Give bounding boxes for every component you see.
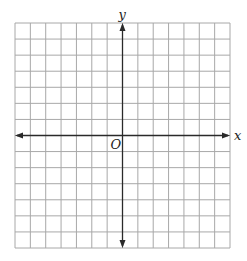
- axes: [15, 23, 230, 248]
- x-axis-label: x: [234, 128, 242, 143]
- coordinate-plane: x y O: [0, 0, 247, 261]
- y-axis-label: y: [118, 7, 127, 22]
- x-axis-left-arrow-icon: [15, 133, 23, 139]
- x-axis-right-arrow-icon: [222, 133, 230, 139]
- y-axis-down-arrow-icon: [120, 240, 126, 248]
- origin-label: O: [111, 137, 122, 152]
- y-axis-up-arrow-icon: [120, 23, 126, 31]
